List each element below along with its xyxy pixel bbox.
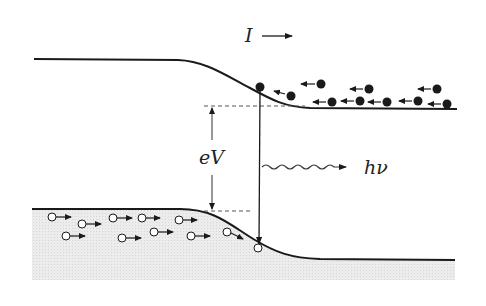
electron <box>301 80 326 89</box>
valence-band-fill <box>32 209 455 280</box>
electron <box>274 91 296 101</box>
electron <box>418 85 442 94</box>
electron <box>313 98 337 107</box>
voltage-label: eV <box>199 146 226 168</box>
electron <box>368 98 392 107</box>
electron <box>428 100 452 109</box>
hole-recombining <box>254 244 262 252</box>
electron <box>341 97 365 106</box>
transition-arrow <box>259 90 260 244</box>
electron-recombining <box>256 83 265 92</box>
electron <box>350 85 374 94</box>
led-band-diagram: eV hν I <box>0 0 486 306</box>
conduction-band-edge <box>34 59 457 109</box>
photon-wave-icon <box>262 165 346 169</box>
electron <box>399 97 423 106</box>
photon-label: hν <box>364 156 388 178</box>
current-label: I <box>244 24 253 46</box>
